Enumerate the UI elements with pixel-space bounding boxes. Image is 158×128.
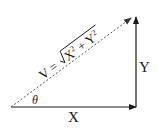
formula: V = X2 + Y2 (35, 25, 105, 83)
x-label: X (68, 109, 79, 125)
svg-text:V =: V = (36, 59, 61, 83)
formula-lhs: V = (36, 59, 61, 83)
vector-diagram: X Y θ V = X2 + Y2 (0, 0, 158, 128)
theta-label: θ (32, 93, 38, 107)
y-label: Y (139, 59, 150, 75)
